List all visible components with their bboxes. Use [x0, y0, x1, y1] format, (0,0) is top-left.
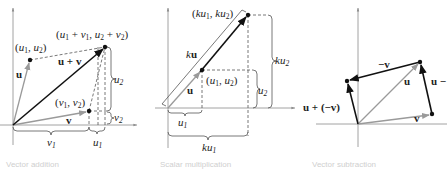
label-vector-u-minus-v: u − [431, 75, 446, 87]
label-brace-u1: u1 [93, 136, 102, 150]
point-v [87, 109, 91, 113]
label-brace-u2: u2 [258, 84, 268, 98]
point-u [200, 68, 204, 72]
label-vector-v: v [66, 114, 72, 126]
vector-u [168, 72, 200, 108]
brace-v1 [13, 127, 89, 135]
point-sum [103, 45, 107, 49]
point-v [430, 112, 434, 116]
brace-ku1 [168, 132, 248, 140]
brace-ku [162, 10, 246, 106]
caption-vector-addition: Vector addition [6, 160, 59, 169]
label-brace-u2: u2 [114, 73, 124, 87]
caption-scalar-multiplication: Scalar multiplication [160, 160, 231, 169]
label-brace-ku1: ku1 [202, 141, 216, 155]
panel-vector-subtraction: −v u u − u + (−v) v Vector subtraction [303, 8, 447, 169]
caption-vector-subtraction: Vector subtraction [312, 160, 376, 169]
label-vector-u: u [404, 75, 410, 87]
label-vector-u: u [187, 84, 193, 96]
label-vector-v: v [414, 112, 420, 124]
label-vector-u: u [16, 68, 22, 80]
point-u-minus-v [345, 79, 349, 83]
label-point-sum: (u1 + v1, u2 + v2) [56, 28, 128, 42]
point-u [418, 60, 422, 64]
brace-u1 [89, 127, 105, 134]
label-vector-u-plus-v: u + v [58, 55, 82, 67]
label-point-v: (v1, v2) [55, 96, 85, 110]
vector-v [13, 112, 86, 125]
label-vector-ku: ku [186, 48, 197, 60]
panel-vector-addition: (u1, u2) (u1 + v1, u2 + v2) u + v u (v1,… [0, 8, 137, 169]
vector-operations-figure: (u1, u2) (u1 + v1, u2 + v2) u + v u (v1,… [0, 0, 447, 170]
brace-v2 [107, 112, 114, 124]
label-brace-ku2: ku2 [275, 54, 289, 68]
label-vector-neg-v: −v [378, 58, 390, 70]
label-point-ku: (ku1, ku2) [192, 7, 233, 21]
label-point-u: (u1, u2) [15, 41, 47, 55]
point-ku [246, 13, 250, 17]
panel-scalar-multiplication: (ku1, ku2) ku u (u1, u2) u2 ku2 u1 ku1 S… [155, 7, 295, 169]
point-u [28, 58, 32, 62]
label-brace-v1: v1 [47, 136, 56, 150]
vector-ku [200, 17, 246, 72]
vector-u-plus-neg-v [348, 84, 358, 124]
vector-u-minus-v [421, 65, 432, 114]
label-vector-u-plus-neg-v: u + (−v) [303, 101, 340, 114]
label-brace-v2: v2 [114, 111, 123, 125]
vector-u [358, 64, 418, 124]
label-point-u: (u1, u2) [206, 74, 238, 88]
brace-u1 [168, 110, 202, 116]
label-brace-u1: u1 [178, 116, 187, 130]
